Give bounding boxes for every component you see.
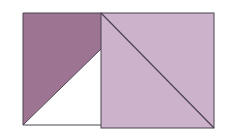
geometry-diagram bbox=[0, 0, 228, 138]
